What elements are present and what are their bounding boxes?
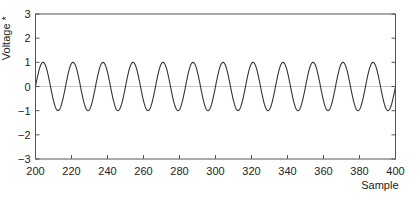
x-axis-ticks: 200220240260280300320340360380400 [26,155,404,177]
x-tick-label: 220 [62,165,80,177]
x-tick-label: 340 [278,165,296,177]
x-tick-label: 360 [314,165,332,177]
y-tick-label: 1 [24,56,30,68]
y-tick-label: 3 [24,8,30,20]
x-tick-label: 380 [350,165,368,177]
x-axis-title: Sample [361,179,398,191]
y-axis-title: Voltage * [0,15,12,60]
x-tick-label: 320 [242,165,260,177]
x-tick-label: 260 [134,165,152,177]
x-tick-label: 200 [26,165,44,177]
x-tick-label: 280 [170,165,188,177]
x-tick-label: 400 [386,165,404,177]
y-tick-label: 2 [24,32,30,44]
y-tick-label: −3 [18,153,31,165]
x-tick-label: 240 [98,165,116,177]
y-tick-label: −1 [18,105,31,117]
y-tick-label: 0 [24,81,30,93]
x-tick-label: 300 [206,165,224,177]
voltage-chart: 200220240260280300320340360380400 3210−1… [0,0,420,203]
y-tick-label: −2 [18,129,31,141]
